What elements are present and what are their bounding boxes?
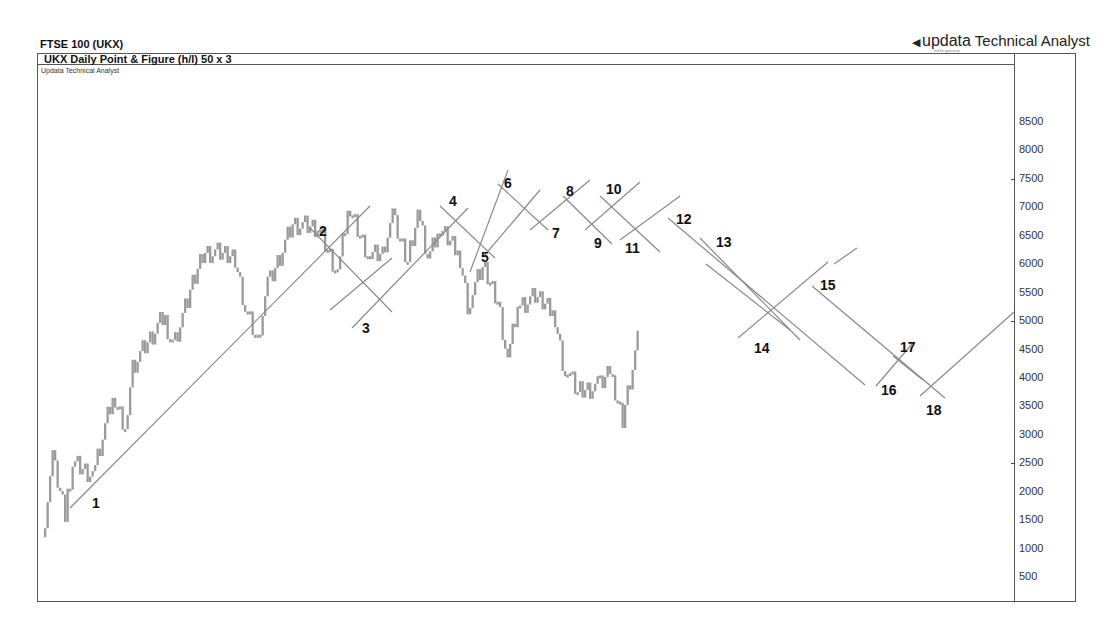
wave-label: 9 [594,235,602,251]
wave-label: 13 [716,234,732,250]
wave-label: 16 [881,382,897,398]
wave-label: 18 [926,402,942,418]
wave-label: 11 [625,240,640,256]
wave-label: 17 [900,339,916,355]
wave-label: 5 [481,249,489,265]
wave-label: 10 [606,181,622,197]
wave-label: 1 [92,495,100,511]
wave-label: 14 [754,340,770,356]
wave-label: 4 [449,193,457,209]
wave-label: 3 [362,320,370,336]
wave-label: 15 [820,277,836,293]
wave-label: 12 [676,211,692,227]
pnf-plot: 123456789101112131415161718 [0,0,1109,633]
wave-label: 7 [552,225,560,241]
trend-lines [70,170,1014,508]
pnf-columns [44,208,639,537]
wave-label: 2 [319,223,327,239]
wave-label: 6 [504,175,512,191]
wave-label: 8 [566,183,574,199]
